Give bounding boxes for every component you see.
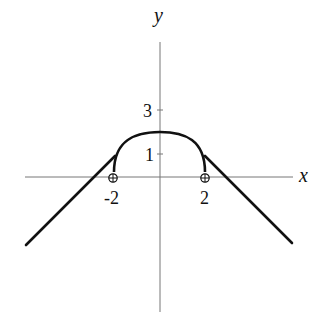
y-axis-label: y bbox=[152, 4, 163, 27]
open-point-2 bbox=[201, 174, 209, 182]
right-ray bbox=[205, 156, 292, 243]
left-ray bbox=[26, 156, 115, 245]
function-graph: y x -2 2 3 1 bbox=[0, 0, 329, 319]
x-tick-label-2: 2 bbox=[200, 188, 209, 208]
x-tick-label-neg2: -2 bbox=[104, 188, 119, 208]
y-tick-label-1: 1 bbox=[145, 145, 154, 165]
open-point-neg2 bbox=[109, 174, 117, 182]
y-tick-label-3: 3 bbox=[143, 101, 152, 121]
x-axis-label: x bbox=[298, 164, 308, 186]
